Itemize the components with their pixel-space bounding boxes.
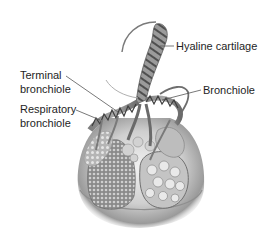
lobule-body [78,118,204,228]
label-terminal-bronchiole-line2: bronchiole [20,83,71,96]
label-hyaline-cartilage: Hyaline cartilage [176,40,257,53]
lung-lobule-diagram: Hyaline cartilage Bronchiole Terminal br… [0,0,270,243]
label-bronchiole: Bronchiole [203,84,255,97]
label-terminal-bronchiole-line1: Terminal [20,69,62,82]
leader-bronchiole [162,90,201,100]
label-respiratory-bronchiole-line1: Respiratory [20,103,76,116]
label-respiratory-bronchiole-line2: bronchiole [20,117,71,130]
leader-respiratory-bronchiole [76,110,100,120]
